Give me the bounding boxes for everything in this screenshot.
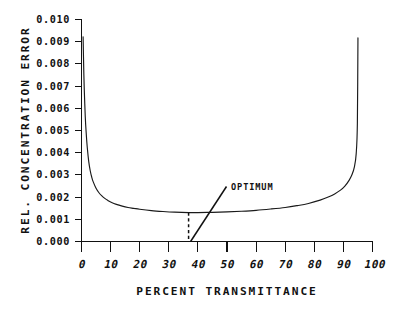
x-tick-label: 60: [248, 258, 265, 271]
series-relative-concentration-error: [83, 37, 358, 213]
y-tick-label: 0.000: [36, 236, 70, 247]
y-tick-label: 0.010: [36, 14, 70, 25]
optimum-label: OPTIMUM: [231, 182, 274, 192]
chart-canvas: 0.010 0.009 0.008 0.007 0.006 0.005 0.00…: [0, 0, 403, 316]
y-tick-label: 0.005: [36, 125, 70, 136]
x-tick-label: 100: [363, 258, 387, 271]
y-tick-label: 0.003: [36, 169, 70, 180]
x-tick-label: 20: [132, 258, 149, 271]
y-tick-label: 0.004: [36, 147, 70, 158]
y-axis-title: REL. CONCENTRATION ERROR: [19, 26, 32, 233]
x-axis-tick-labels: 0 10 20 30 40 50 60 70 80 90 100: [77, 258, 387, 271]
optimum-leader-line: [191, 187, 227, 242]
data-curve: [83, 37, 358, 213]
x-tick-label: 40: [190, 258, 207, 271]
chart-figure: 0.010 0.009 0.008 0.007 0.006 0.005 0.00…: [0, 0, 403, 316]
y-tick-label: 0.008: [36, 58, 70, 69]
y-tick-label: 0.009: [36, 36, 70, 47]
x-tick-label: 90: [336, 258, 353, 271]
x-tick-label: 80: [306, 258, 323, 271]
y-axis-tick-labels: 0.010 0.009 0.008 0.007 0.006 0.005 0.00…: [36, 14, 70, 247]
y-tick-label: 0.007: [36, 81, 70, 92]
x-tick-label: 70: [277, 258, 294, 271]
y-axis-ticks: [75, 20, 82, 242]
x-axis-title: PERCENT TRANSMITTANCE: [136, 285, 317, 298]
x-tick-label: 50: [219, 258, 236, 271]
x-axis-ticks: [82, 242, 373, 253]
x-tick-label: 30: [161, 258, 178, 271]
axes-group: [75, 19, 373, 242]
y-tick-label: 0.002: [36, 192, 70, 203]
y-tick-label: 0.001: [36, 214, 70, 225]
y-tick-label: 0.006: [36, 103, 70, 114]
x-tick-label: 0: [77, 258, 87, 271]
x-tick-label: 10: [103, 258, 120, 271]
